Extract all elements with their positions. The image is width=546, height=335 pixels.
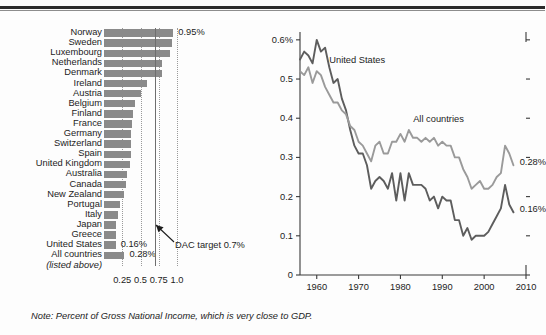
dac-target-annotation: DAC target 0.7% (175, 240, 245, 250)
line-series-all-countries[interactable] (300, 67, 513, 189)
bar-row[interactable]: Belgium (0, 99, 250, 109)
bar-rect[interactable] (104, 181, 126, 188)
bar-rect[interactable] (104, 70, 162, 77)
end-label-united-states: 0.16% (520, 204, 546, 214)
bar-chart-panel: Norway0.95%SwedenLuxembourgNetherlandsDe… (0, 14, 250, 304)
line-chart-panel: 0.6%0.50.40.30.20.1019601970198019902000… (262, 14, 545, 304)
line-series-united-states[interactable] (300, 40, 513, 240)
line-y-tick-label: 0.2 (262, 192, 293, 202)
end-label-all-countries: 0.28% (520, 157, 546, 167)
top-divider-thick (0, 6, 545, 9)
bar-row[interactable]: Germany (0, 129, 250, 139)
bar-row[interactable]: France (0, 119, 250, 129)
bar-row[interactable]: Japan (0, 220, 250, 230)
bar-rect[interactable] (104, 100, 135, 107)
bar-rect[interactable] (104, 221, 116, 228)
series-label-united-states: United States (329, 55, 385, 65)
bar-rect[interactable] (104, 29, 173, 36)
top-divider-thin (0, 10, 545, 11)
line-x-tick-label: 1980 (390, 282, 411, 292)
bar-row[interactable]: New Zealand (0, 190, 250, 200)
line-x-tick-label: 2010 (516, 282, 537, 292)
bar-row[interactable]: Portugal (0, 200, 250, 210)
bar-row[interactable]: Switzerland (0, 139, 250, 149)
line-x-tick-label: 1990 (432, 282, 453, 292)
bar-rect[interactable] (104, 161, 130, 168)
bar-row[interactable]: All countries0.28% (0, 250, 250, 260)
line-y-tick-label: 0.4 (262, 113, 293, 123)
bar-row[interactable]: Netherlands (0, 58, 250, 68)
bar-rect[interactable] (104, 120, 132, 127)
bar-category-label: All countries (51, 249, 102, 260)
bar-rect[interactable] (104, 80, 147, 87)
bar-rect[interactable] (104, 50, 170, 57)
bar-rect[interactable] (104, 130, 131, 137)
bar-row[interactable]: Sweden (0, 38, 250, 48)
bar-row[interactable]: Finland (0, 109, 250, 119)
bar-rect[interactable] (104, 90, 141, 97)
bar-rect[interactable] (104, 110, 133, 117)
bar-value-label: 0.95% (178, 27, 204, 38)
line-x-tick-label: 2000 (474, 282, 495, 292)
bar-x-tick-label: 0.25 (113, 275, 131, 285)
line-y-tick-label: 0.1 (262, 231, 293, 241)
bar-row[interactable]: Norway0.95% (0, 28, 250, 38)
line-chart-svg (262, 14, 545, 304)
bar-row[interactable]: Austria (0, 89, 250, 99)
bar-rect[interactable] (104, 201, 120, 208)
bar-row[interactable]: Ireland (0, 79, 250, 89)
line-y-tick-label: 0 (262, 270, 293, 280)
bar-rect[interactable] (104, 231, 116, 238)
line-y-tick-label: 0.3 (262, 152, 293, 162)
line-y-tick-label: 0.6% (262, 35, 293, 45)
line-x-tick-label: 1960 (306, 282, 327, 292)
bar-rect[interactable] (104, 252, 124, 259)
bar-rect[interactable] (104, 39, 172, 46)
bar-rect[interactable] (104, 171, 127, 178)
figure-note: Note: Percent of Gross National Income, … (31, 311, 312, 321)
bar-row[interactable]: United Kingdom (0, 159, 250, 169)
bar-rect[interactable] (104, 241, 116, 248)
bar-x-tick-label: 0.5 (134, 275, 147, 285)
bar-x-tick-label: 0.75 (150, 275, 168, 285)
bar-row[interactable]: Canada (0, 180, 250, 190)
bar-row[interactable]: Australia (0, 169, 250, 179)
bar-value-label: 0.28% (129, 249, 155, 260)
bar-rect[interactable] (104, 191, 124, 198)
bar-rect[interactable] (104, 211, 118, 218)
bar-x-tick-label: 1.0 (171, 275, 184, 285)
bar-rect[interactable] (104, 60, 162, 67)
bar-row[interactable]: Denmark (0, 68, 250, 78)
bar-rect[interactable] (104, 151, 131, 158)
series-label-all-countries: All countries (413, 114, 464, 124)
bar-row[interactable]: Luxembourg (0, 48, 250, 58)
bar-rect[interactable] (104, 140, 131, 147)
bar-sublabel: (listed above) (46, 260, 102, 270)
line-y-tick-label: 0.5 (262, 74, 293, 84)
line-x-tick-label: 1970 (348, 282, 369, 292)
bar-row[interactable]: Italy (0, 210, 250, 220)
